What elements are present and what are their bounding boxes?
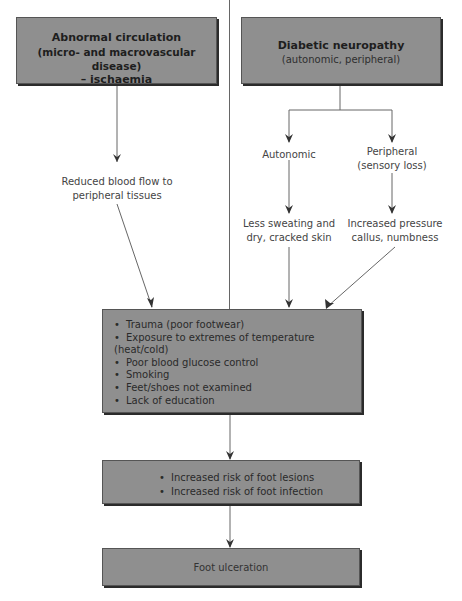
risk-factor-item: Feet/shoes not examined [114, 382, 361, 395]
risk-factors-box: Trauma (poor footwear) Exposure to extre… [102, 309, 362, 413]
diabetic-neuropathy-title: Diabetic neuropathy [242, 39, 440, 53]
risk-factor-item: Trauma (poor footwear) [114, 319, 361, 332]
reduced-blood-flow-line-2: peripheral tissues [47, 189, 187, 203]
reduced-blood-flow-line-1: Reduced blood flow to [47, 175, 187, 189]
less-sweating-label: Less sweating and dry, cracked skin [239, 217, 339, 245]
increased-pressure-label: Increased pressure callus, numbness [345, 217, 445, 245]
increased-pressure-line-1: Increased pressure [345, 217, 445, 231]
abnormal-circulation-title-2: (micro- and macrovascular disease) [17, 45, 216, 73]
reduced-blood-flow-label: Reduced blood flow to peripheral tissues [47, 175, 187, 203]
peripheral-label: Peripheral (sensory loss) [347, 145, 437, 173]
less-sweating-line-2: dry, cracked skin [239, 231, 339, 245]
risk-factor-item: Smoking [114, 369, 361, 382]
increased-risk-item: Increased risk of foot infection [159, 485, 359, 499]
abnormal-circulation-box: Abnormal circulation (micro- and macrova… [16, 17, 217, 84]
risk-factor-item: Lack of education [114, 395, 361, 408]
arrow-pressure-to-factors [327, 247, 395, 307]
increased-risk-box: Increased risk of foot lesions Increased… [102, 460, 360, 504]
increased-risk-item: Increased risk of foot lesions [159, 471, 359, 485]
risk-factors-list: Trauma (poor footwear) Exposure to extre… [114, 319, 361, 407]
diabetic-neuropathy-subtitle: (autonomic, peripheral) [242, 53, 440, 66]
risk-factor-item: Exposure to extremes of temperature (hea… [114, 332, 361, 357]
foot-ulceration-label: Foot ulceration [103, 561, 359, 574]
autonomic-label: Autonomic [249, 148, 329, 162]
abnormal-circulation-title-3: – ischaemia [17, 73, 216, 87]
diabetic-neuropathy-box: Diabetic neuropathy (autonomic, peripher… [241, 17, 441, 84]
increased-pressure-line-2: callus, numbness [345, 231, 445, 245]
less-sweating-line-1: Less sweating and [239, 217, 339, 231]
increased-risk-list: Increased risk of foot lesions Increased… [159, 471, 359, 498]
autonomic-label-text: Autonomic [262, 149, 316, 160]
arrow-bloodflow-to-factors [117, 204, 152, 307]
peripheral-label-line-1: Peripheral [347, 145, 437, 159]
peripheral-label-line-2: (sensory loss) [347, 159, 437, 173]
risk-factor-item: Poor blood glucose control [114, 357, 361, 370]
foot-ulceration-box: Foot ulceration [102, 548, 360, 586]
abnormal-circulation-title-1: Abnormal circulation [17, 31, 216, 45]
connector-lines [0, 0, 462, 601]
